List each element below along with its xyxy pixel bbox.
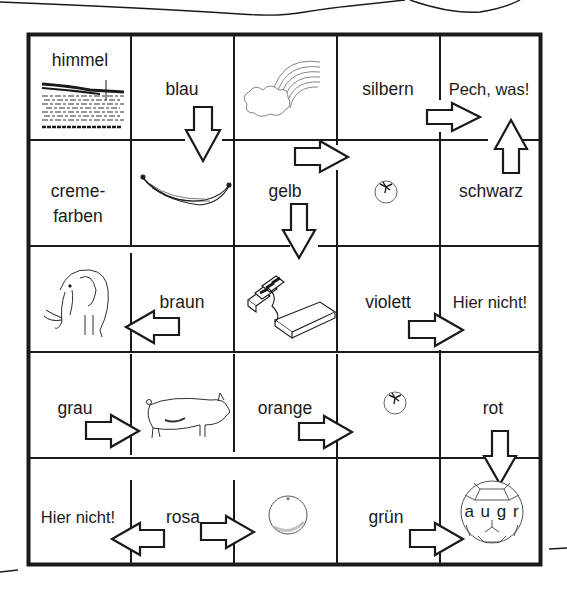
left-margin-line [0, 570, 18, 572]
football-letters: a u g r [464, 502, 519, 522]
cell-label-gruen: grün [368, 506, 403, 528]
cell-label-himmel: himmel [52, 49, 108, 71]
cell-label-gelb: gelb [268, 180, 301, 202]
cell-label-hier-nicht-1: Hier nicht! [453, 291, 527, 313]
cell-label-rot: rot [483, 397, 503, 419]
cell-label-orange: orange [258, 397, 313, 419]
cell-label-silbern: silbern [362, 78, 414, 100]
cell-label-rosa: rosa [166, 506, 200, 528]
cell-label-creme: creme- [51, 180, 105, 202]
cell-label-schwarz: schwarz [459, 180, 523, 202]
cell-label-hier-nicht-2: Hier nicht! [41, 506, 115, 528]
word-grid: himmel blau silbern Pech, was! creme- fa… [27, 33, 541, 565]
cell-label-braun: braun [160, 291, 205, 313]
cell-label-farben: farben [53, 205, 103, 227]
cell-label-pech-was: Pech, was! [449, 78, 530, 100]
right-margin-line [549, 548, 567, 549]
top-bubble-outline [0, 0, 520, 15]
cell-label-violett: violett [365, 291, 411, 313]
cell-label-blau: blau [165, 78, 198, 100]
cell-label-grau: grau [57, 397, 92, 419]
